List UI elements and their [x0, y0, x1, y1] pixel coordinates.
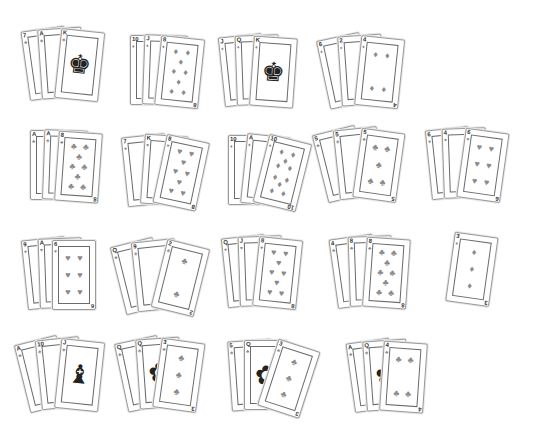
face-card-figure: ♚	[259, 47, 288, 97]
hearts-icon: ♥	[176, 178, 183, 188]
card-pips: ♣♣	[159, 247, 202, 309]
diamonds-icon: ♦	[469, 265, 475, 275]
clubs-icon: ♣	[83, 143, 90, 152]
hearts-icon: ♥	[267, 287, 273, 297]
diamonds-icon: ♦	[467, 281, 473, 291]
hearts-icon: ♥	[77, 287, 82, 296]
diamonds-icon: ♦	[286, 164, 293, 174]
diamonds-icon: ♦	[275, 161, 282, 171]
playing-card-6-hearts[interactable]: 6♥♥♥♥♥♥♥6	[52, 240, 96, 310]
hearts-icon: ♥	[146, 142, 149, 148]
clubs-icon: ♣	[76, 152, 83, 161]
card-rank-bottom: 8	[193, 101, 197, 108]
card-rank-bottom: 4	[393, 101, 397, 108]
playing-card-4-diamonds[interactable]: 4♦♦♦♦♦4	[354, 35, 405, 109]
diamonds-icon: ♦	[269, 186, 276, 196]
playing-card-3-diamonds[interactable]: 3♦♦♦♦3	[445, 232, 498, 307]
clubs-icon: ♣	[379, 178, 386, 188]
diamonds-icon: ♦	[284, 175, 291, 185]
diamonds-icon: ♦	[169, 86, 175, 95]
card-hand: 5♣Q♣✿3♣♣♣♣3	[232, 340, 332, 430]
hearts-icon: ♥	[180, 158, 187, 168]
playing-card-8-clubs[interactable]: 8♣♣♣♣♣♣♣♣♣8	[362, 237, 411, 310]
court-figure-icon: ♚	[67, 49, 93, 82]
clubs-icon: ♣	[365, 349, 369, 355]
clubs-icon: ♣	[175, 370, 182, 380]
playing-card-6-hearts[interactable]: 6♥♥♥♥♥♥♥6	[456, 128, 509, 203]
hearts-icon: ♥	[283, 250, 289, 260]
hearts-icon: ♥	[276, 258, 282, 268]
card-hand: Q♥J♥♝8♥♥♥♥♥♥♥♥♥8	[228, 236, 328, 326]
hearts-icon: ♥	[444, 137, 447, 143]
diamonds-icon: ♦	[280, 189, 287, 199]
card-pips: ♦♦♦♦♦♦♦♦	[162, 43, 198, 102]
playing-card-5-clubs[interactable]: 5♣♣♣♣♣♣5	[352, 128, 405, 203]
card-pips: ♦♦♦♦	[362, 43, 398, 102]
hearts-icon: ♥	[280, 269, 286, 279]
card-pips: ♣♣♣♣♣♣♣♣	[370, 244, 404, 302]
diamonds-icon: ♦	[178, 57, 184, 66]
clubs-icon: ♣	[246, 348, 249, 354]
card-pips: ♥♥♥♥♥♥	[59, 247, 89, 303]
hearts-icon: ♥	[54, 248, 57, 254]
clubs-icon: ♣	[40, 37, 44, 43]
card-rank: 10	[132, 36, 139, 43]
clubs-icon: ♣	[134, 250, 138, 256]
card-hand: 6♦2♦4♦♦♦♦♦4	[330, 35, 430, 125]
hearts-icon: ♥	[65, 254, 70, 263]
hearts-icon: ♥	[428, 138, 432, 144]
playing-card-k-clubs[interactable]: K♣♚	[54, 28, 105, 102]
hearts-icon: ♥	[172, 167, 179, 177]
playing-card-k-diamonds[interactable]: K♦♚	[249, 36, 298, 109]
hearts-icon: ♥	[471, 176, 478, 186]
clubs-icon: ♣	[405, 390, 412, 399]
card-rank-bottom: 8	[93, 195, 97, 202]
diamonds-icon: ♦	[455, 240, 458, 246]
hearts-icon: ♥	[65, 271, 70, 280]
clubs-icon: ♣	[81, 163, 88, 172]
hearts-icon: ♥	[124, 145, 128, 151]
card-rank-bottom: 3	[484, 298, 488, 305]
card-rank-bottom: 5	[391, 194, 395, 201]
card-rank-bottom: 8	[401, 301, 405, 308]
clubs-icon: ♣	[279, 389, 287, 399]
card-hand: Q♣9♣2♣♣♣2	[126, 240, 226, 330]
diamonds-icon: ♦	[320, 48, 324, 54]
card-pips: ♣♣♣♣♣♣♣♣	[62, 138, 96, 196]
hearts-icon: ♥	[168, 186, 175, 196]
clubs-icon: ♣	[230, 349, 234, 355]
clubs-icon: ♣	[375, 160, 382, 170]
clubs-icon: ♣	[332, 247, 336, 253]
card-hand: 10♦J♦8♦♦♦♦♦♦♦♦♦8	[130, 35, 230, 125]
clubs-icon: ♣	[290, 358, 298, 368]
playing-card-8-hearts[interactable]: 8♥♥♥♥♥♥♥♥♥8	[252, 236, 303, 310]
card-hand: A♣A♣8♣♣♣♣♣♣♣♣♣8	[30, 130, 130, 220]
clubs-icon: ♣	[349, 351, 353, 357]
hearts-icon: ♥	[184, 169, 191, 179]
diamonds-icon: ♦	[471, 248, 477, 258]
playing-card-3-clubs[interactable]: 3♣♣♣♣3	[152, 338, 205, 413]
card-hand: A♣Q♣✿4♣♣♣♣♣4	[355, 340, 455, 430]
card-pips: ♦♦♦♦♦♦♦♦♦♦	[261, 142, 304, 204]
clubs-icon: ♣	[178, 354, 185, 364]
diamonds-icon: ♦	[255, 44, 258, 50]
clubs-icon: ♣	[60, 139, 64, 145]
card-hand: J♦Q♦K♦♚	[225, 35, 325, 125]
card-pips: ♥♥♥♥♥♥♥♥	[161, 142, 202, 203]
card-rank-bottom: 2	[188, 308, 193, 316]
card-rank-bottom: 8	[191, 203, 196, 211]
card-hand: 7♣A♣K♣♚	[30, 28, 130, 118]
card-hand: 4♣8♣8♣♣♣♣♣♣♣♣♣8	[338, 236, 438, 326]
hearts-icon: ♥	[269, 268, 275, 278]
hearts-icon: ♥	[224, 246, 228, 252]
card-rank-bottom: 3	[191, 404, 195, 411]
playing-card-4-clubs[interactable]: 4♣♣♣♣♣4	[379, 341, 428, 414]
playing-card-j-clubs[interactable]: J♣♝	[54, 338, 105, 412]
clubs-icon: ♣	[68, 182, 75, 191]
diamonds-icon: ♦	[183, 68, 189, 77]
hearts-icon: ♥	[40, 247, 43, 253]
playing-card-8-clubs[interactable]: 8♣♣♣♣♣♣♣♣♣8	[54, 131, 103, 204]
diamonds-icon: ♦	[181, 88, 187, 97]
clubs-icon: ♣	[285, 374, 293, 384]
playing-card-8-diamonds[interactable]: 8♦♦♦♦♦♦♦♦♦8	[154, 35, 205, 109]
